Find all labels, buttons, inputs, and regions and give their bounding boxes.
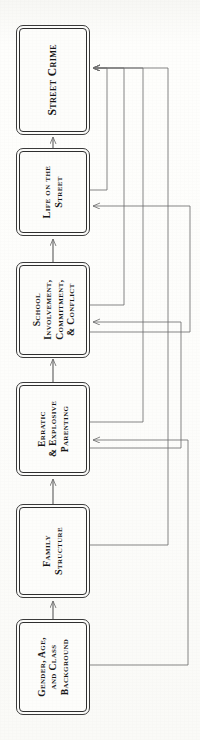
- node-label-line: Gender, Age,: [36, 637, 47, 697]
- node-label-line: Involvement,: [42, 280, 53, 340]
- node-label-line: Commitment,: [53, 280, 64, 340]
- node-school-involvement-commitment-conflict[interactable]: SchoolInvolvement,Commitment,& Conflict: [16, 262, 90, 358]
- node-label-school-involvement-commitment-conflict: SchoolInvolvement,Commitment,& Conflict: [30, 280, 75, 340]
- node-erratic-explosive-parenting[interactable]: Erratic& ExplosiveParenting: [16, 382, 90, 476]
- edge-gender-bypass-erratic: [90, 440, 188, 665]
- node-label-gender-age-class-background: Gender, Age,and ClassBackground: [36, 637, 70, 697]
- edge-school-bypass-life: [90, 206, 190, 332]
- node-label-line: and Class: [47, 637, 58, 697]
- node-label-line: Erratic: [36, 401, 47, 457]
- edge-school-bypass-crime: [90, 68, 124, 305]
- node-label-line: School: [30, 280, 41, 340]
- node-family-structure[interactable]: FamilyStructure: [16, 504, 90, 598]
- edge-erratic-bypass-school: [90, 322, 181, 448]
- node-label-street-crime: Street Crime: [46, 44, 60, 115]
- edge-erratic-bypass-crime: [90, 68, 143, 422]
- node-label-life-on-the-street: Life on theStreet: [41, 166, 65, 219]
- node-label-line: Background: [59, 637, 70, 697]
- node-label-line: & Explosive: [47, 401, 58, 457]
- node-label-erratic-explosive-parenting: Erratic& ExplosiveParenting: [36, 401, 70, 457]
- node-label-family-structure: FamilyStructure: [41, 527, 65, 575]
- node-label-line: Street: [53, 166, 65, 219]
- node-life-on-the-street[interactable]: Life on theStreet: [16, 148, 90, 236]
- node-label-line: Life on the: [41, 166, 53, 219]
- node-street-crime[interactable]: Street Crime: [16, 25, 90, 135]
- node-label-line: Street Crime: [46, 44, 60, 115]
- node-label-line: Family: [41, 527, 53, 575]
- node-label-line: & Conflict: [64, 280, 75, 340]
- node-gender-age-class-background[interactable]: Gender, Age,and ClassBackground: [16, 619, 90, 715]
- node-label-line: Parenting: [59, 401, 70, 457]
- edge-life-bypass-crime: [90, 68, 107, 190]
- edge-family-bypass-crime: [90, 68, 168, 545]
- causal-path-diagram: Street Crime Life on theStreet SchoolInv…: [0, 0, 200, 740]
- node-label-line: Structure: [53, 527, 65, 575]
